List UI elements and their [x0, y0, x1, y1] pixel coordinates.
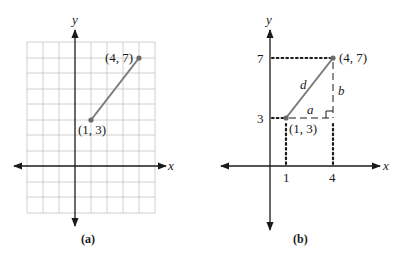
- label-a: a: [307, 102, 314, 117]
- x-tick-4: 4: [329, 170, 336, 185]
- point-label-1-3: (1, 3): [289, 121, 317, 136]
- panel-a: x y (1, 3) (4, 7) (a): [14, 12, 174, 246]
- point-1-3: [283, 115, 288, 120]
- right-angle-marker: [326, 111, 333, 118]
- y-axis-label: y: [70, 12, 78, 27]
- distance-formula-figure: x y (1, 3) (4, 7) (a) x y (1, 3): [0, 0, 402, 257]
- y-tick-3: 3: [257, 111, 264, 126]
- caption-b: (b): [293, 232, 308, 246]
- x-axis-label: x: [382, 158, 389, 173]
- x-tick-1: 1: [283, 170, 290, 185]
- y-tick-7: 7: [257, 51, 264, 66]
- label-b: b: [338, 83, 345, 98]
- point-4-7: [330, 55, 335, 60]
- y-axis-label: y: [264, 12, 272, 27]
- label-d: d: [300, 77, 307, 92]
- caption-a: (a): [81, 232, 95, 246]
- panel-b: x y (1, 3) (4, 7) d a b 7 3 1 4 (b): [221, 12, 389, 246]
- point-label-4-7: (4, 7): [339, 50, 367, 65]
- x-axis-label: x: [167, 158, 174, 173]
- dotted-guides: [272, 58, 333, 164]
- point-label-1-3: (1, 3): [78, 122, 106, 137]
- point-4-7: [136, 55, 141, 60]
- point-label-4-7: (4, 7): [105, 50, 133, 65]
